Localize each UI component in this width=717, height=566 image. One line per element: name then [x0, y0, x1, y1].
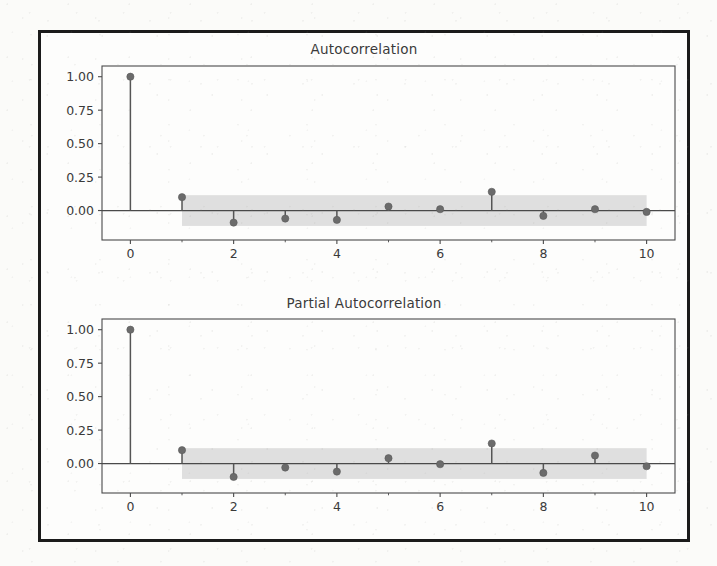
- x-tick-label: 10: [639, 499, 655, 514]
- stem-marker: [488, 188, 495, 195]
- stem-marker: [282, 464, 289, 471]
- acf-panel: Autocorrelation 0.000.250.500.751.000246…: [41, 33, 687, 289]
- stem-marker: [488, 440, 495, 447]
- stem-marker: [643, 463, 650, 470]
- stem-marker: [333, 216, 340, 223]
- x-tick-label: 4: [333, 246, 341, 261]
- stem-marker: [385, 455, 392, 462]
- stem-marker: [591, 452, 598, 459]
- y-tick-label: 0.25: [66, 423, 94, 438]
- x-tick-label: 6: [436, 499, 444, 514]
- y-tick-label: 0.75: [66, 356, 94, 371]
- stem-marker: [437, 461, 444, 468]
- stem-marker: [437, 206, 444, 213]
- x-tick-label: 2: [230, 246, 238, 261]
- stem-marker: [178, 194, 185, 201]
- y-tick-label: 0.50: [66, 136, 94, 151]
- x-tick-label: 10: [639, 246, 655, 261]
- stem-marker: [282, 215, 289, 222]
- stem-marker: [127, 73, 134, 80]
- stem-marker: [230, 219, 237, 226]
- y-tick-label: 1.00: [66, 69, 94, 84]
- x-tick-label: 8: [539, 246, 547, 261]
- stem-marker: [591, 206, 598, 213]
- pacf-panel: Partial Autocorrelation 0.000.250.500.75…: [41, 289, 687, 545]
- x-tick-label: 0: [126, 499, 134, 514]
- stem-marker: [230, 473, 237, 480]
- x-tick-label: 8: [539, 499, 547, 514]
- y-tick-label: 0.00: [66, 456, 94, 471]
- y-tick-label: 0.75: [66, 103, 94, 118]
- stem-marker: [643, 208, 650, 215]
- stem-marker: [127, 326, 134, 333]
- y-tick-label: 0.50: [66, 389, 94, 404]
- acf-plot: 0.000.250.500.751.000246810: [41, 33, 687, 289]
- y-tick-label: 0.25: [66, 170, 94, 185]
- x-tick-label: 0: [126, 246, 134, 261]
- x-tick-label: 6: [436, 246, 444, 261]
- y-tick-label: 1.00: [66, 322, 94, 337]
- x-tick-label: 4: [333, 499, 341, 514]
- x-tick-label: 2: [230, 499, 238, 514]
- stem-marker: [540, 469, 547, 476]
- stem-marker: [385, 203, 392, 210]
- figure-frame: Autocorrelation 0.000.250.500.751.000246…: [38, 30, 690, 542]
- stem-marker: [540, 212, 547, 219]
- y-tick-label: 0.00: [66, 203, 94, 218]
- pacf-plot: 0.000.250.500.751.000246810: [41, 289, 687, 545]
- stem-marker: [333, 468, 340, 475]
- stem-marker: [178, 447, 185, 454]
